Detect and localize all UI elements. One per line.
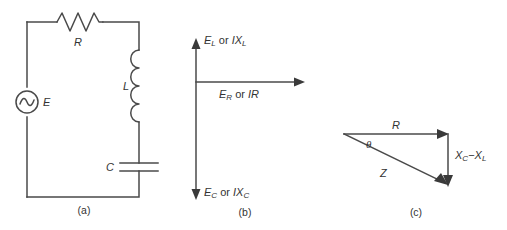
phasor-panel: EL or IXL ER or IR EC or IXC (b) bbox=[192, 34, 306, 218]
caption-b: (b) bbox=[239, 206, 252, 218]
phasor-down-label: EC or IXC bbox=[204, 186, 249, 200]
triangle-reactance-label: XC−XL bbox=[454, 149, 486, 163]
triangle-side-z bbox=[344, 134, 439, 180]
phasor-up-label: EL or IXL bbox=[204, 34, 247, 48]
circuit-panel: R L C E (a) bbox=[16, 13, 158, 216]
inductor-label: L bbox=[123, 80, 129, 92]
figure-svg: R L C E (a) EL or IXL ER or IR EC or IXC… bbox=[0, 0, 507, 230]
phasor-right-label: ER or IR bbox=[219, 88, 259, 102]
triangle-theta-label: θ bbox=[366, 138, 372, 150]
phasor-right-arrowhead bbox=[294, 78, 305, 87]
ac-source-sine-icon bbox=[20, 98, 34, 105]
capacitor-label: C bbox=[106, 161, 114, 173]
wire-top-right bbox=[103, 22, 139, 50]
caption-c: (c) bbox=[410, 206, 422, 218]
triangle-r-arrowhead bbox=[437, 129, 449, 139]
caption-a: (a) bbox=[78, 204, 91, 216]
resistor-label: R bbox=[74, 36, 82, 48]
source-label: E bbox=[43, 96, 51, 108]
phasor-up-arrowhead bbox=[192, 38, 201, 49]
wire-bottom bbox=[27, 171, 139, 197]
resistor-symbol bbox=[57, 13, 103, 31]
triangle-z-label: Z bbox=[379, 167, 388, 179]
triangle-r-label: R bbox=[392, 119, 400, 131]
phasor-down-arrowhead bbox=[192, 189, 201, 200]
figure-container: R L C E (a) EL or IXL ER or IR EC or IXC… bbox=[0, 0, 507, 230]
impedance-triangle-panel: R XC−XL Z θ (c) bbox=[344, 119, 486, 218]
inductor-symbol bbox=[131, 50, 139, 122]
